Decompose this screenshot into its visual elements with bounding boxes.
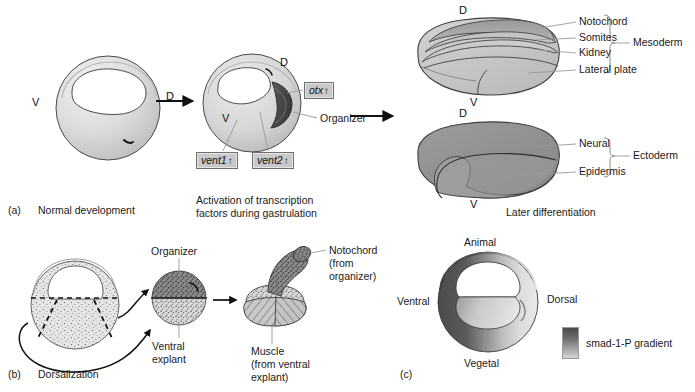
muscle-label-line2: (from ventral	[251, 358, 310, 371]
panel-c-id: (c)	[400, 368, 412, 380]
panel-b-explant-sphere	[151, 258, 207, 338]
panel-b-result	[244, 244, 326, 344]
gene-box-otx-arrow: ↑	[323, 85, 329, 96]
muscle-label-line3: explant)	[251, 371, 288, 384]
notochord-label-line2: (from	[329, 257, 354, 270]
mesoderm-dorsal-label: D	[459, 4, 467, 16]
notochord-label-line1: Notochord	[329, 244, 377, 257]
panel-a-id: (a)	[8, 204, 21, 216]
arrow-b-organizer	[118, 290, 148, 318]
tissue-label-epidermis: Epidermis	[579, 165, 626, 178]
panel-c-vegetal-label: Vegetal	[464, 357, 499, 370]
muscle-label-line1: Muscle	[251, 345, 284, 358]
panel-c-ventral-label: Ventral	[397, 295, 430, 308]
tissue-label-neural: Neural	[579, 137, 610, 150]
gene-box-vent1-label: vent1	[201, 154, 227, 166]
smad-gradient-legend-label: smad-1-P gradient	[586, 337, 672, 350]
notochord-label-line3: organizer)	[329, 270, 376, 283]
mesoderm-ventral-label: V	[470, 96, 477, 108]
gene-box-vent1[interactable]: vent1↑	[196, 152, 238, 169]
panel-b-caption: Dorsalization	[38, 368, 99, 382]
tissue-label-kidney: Kidney	[579, 46, 611, 59]
ectoderm-ventral-label: V	[470, 198, 477, 210]
panel-b-embryo-ring	[31, 259, 119, 349]
panel-a-caption: Normal development	[38, 204, 135, 218]
organizer-label-a: Organizer	[320, 112, 366, 125]
panel-a-embryo-gastrulation	[203, 54, 317, 152]
smad-gradient-legend-bar	[562, 327, 579, 359]
figure-dorsoventral-patterning: V D V D otx↑ vent1↑ vent2↑ Organizer D V…	[0, 0, 695, 392]
panel-a-caption3: Later differentiation	[506, 206, 596, 220]
embryo1-dorsal-label: D	[166, 90, 174, 102]
panel-c-animal-label: Animal	[464, 236, 496, 249]
embryo2-ventral-label: V	[222, 112, 229, 124]
group-label-mesoderm: Mesoderm	[633, 36, 683, 49]
ectoderm-dorsal-label: D	[459, 107, 467, 119]
ventral-explant-line2: explant	[152, 353, 186, 366]
gene-box-otx-label: otx	[309, 84, 323, 96]
panel-c-embryo-gradient	[438, 252, 538, 352]
panel-b-id: (b)	[8, 368, 21, 380]
tissue-label-notochord: Notochord	[579, 15, 627, 28]
gene-box-otx[interactable]: otx↑	[304, 82, 334, 99]
gene-box-vent2[interactable]: vent2↑	[252, 152, 294, 169]
tissue-label-lateral-plate: Lateral plate	[579, 63, 637, 76]
panel-c-dorsal-label: Dorsal	[547, 293, 577, 306]
embryo1-ventral-label: V	[32, 96, 39, 108]
panel-a-embryo-normal	[56, 56, 160, 160]
embryo2-dorsal-label: D	[280, 56, 288, 68]
panel-a-ectoderm-embryo	[418, 122, 630, 198]
gene-box-vent1-arrow: ↑	[227, 155, 233, 166]
gene-box-vent2-label: vent2	[257, 154, 283, 166]
gene-box-vent2-arrow: ↑	[283, 155, 289, 166]
organizer-label-b: Organizer	[151, 245, 197, 258]
panel-a-caption2-line2: factors during gastrulation	[196, 207, 317, 221]
panel-a-caption2-line1: Activation of transcription	[196, 194, 313, 208]
ventral-explant-line1: Ventral	[152, 340, 185, 353]
group-label-ectoderm: Ectoderm	[633, 149, 678, 162]
tissue-label-somites: Somites	[579, 31, 617, 44]
